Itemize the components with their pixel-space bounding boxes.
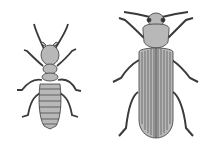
insect-illustration <box>0 0 220 148</box>
